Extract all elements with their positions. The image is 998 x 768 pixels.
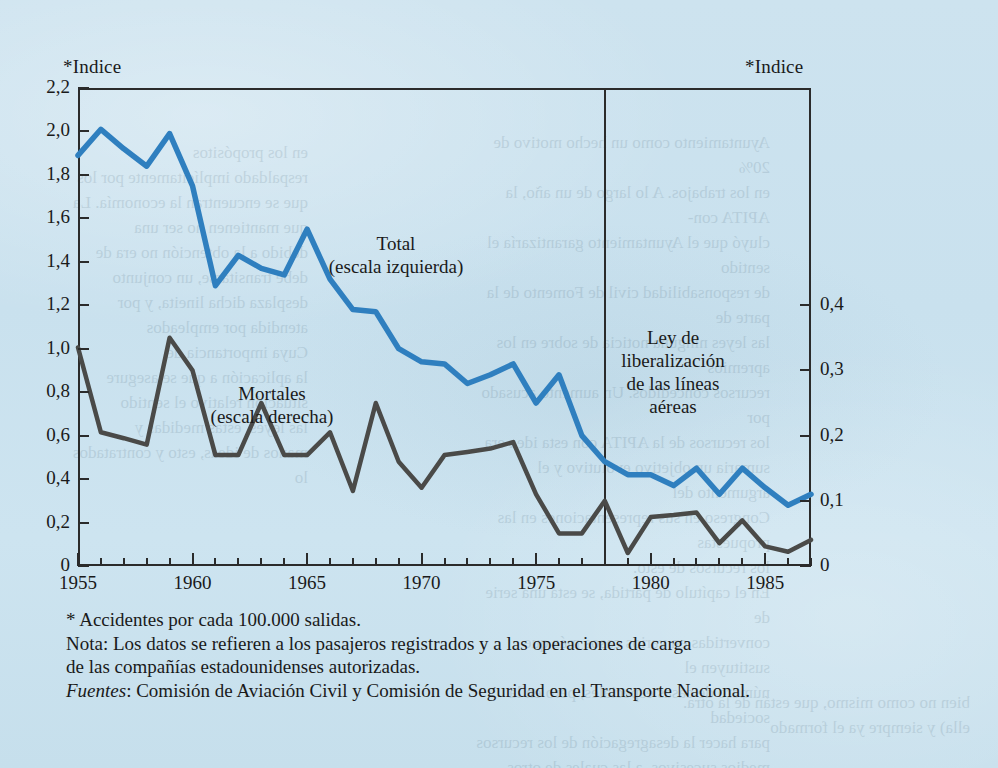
- left-axis-tickmark: [78, 348, 89, 350]
- x-axis-minor-tickmark: [375, 558, 377, 566]
- x-axis-minor-tickmark: [810, 558, 812, 566]
- x-axis-major-tickmark: [535, 553, 537, 566]
- left-axis-title: *Indice: [63, 56, 121, 78]
- x-axis-minor-tickmark: [260, 558, 262, 566]
- x-axis-minor-tickmark: [444, 558, 446, 566]
- right-axis-tickmark: [800, 435, 811, 437]
- x-axis-minor-tickmark: [352, 558, 354, 566]
- x-axis-minor-tickmark: [123, 558, 125, 566]
- x-axis-minor-tickmark: [169, 558, 171, 566]
- annotation-deregulation-law: Ley de liberalización de las líneas aére…: [621, 326, 724, 418]
- right-axis-tickmark: [800, 304, 811, 306]
- left-axis-tickmark: [78, 304, 89, 306]
- left-axis-tickmark: [78, 435, 89, 437]
- x-axis-major-tickmark: [764, 553, 766, 566]
- x-axis-minor-tickmark: [718, 558, 720, 566]
- figure-footnotes: * Accidentes por cada 100.000 salidas. N…: [66, 608, 966, 702]
- deregulation-event-line: [604, 88, 606, 566]
- x-axis-tick-label: 1975: [517, 572, 555, 594]
- footnote-asterisk: * Accidentes por cada 100.000 salidas.: [66, 608, 966, 632]
- x-axis-tick-label: 1960: [174, 572, 212, 594]
- x-axis-minor-tickmark: [627, 558, 629, 566]
- left-axis-tickmark: [78, 261, 89, 263]
- left-axis-tick-label: 1,6: [18, 206, 70, 228]
- x-axis-major-tickmark: [421, 553, 423, 566]
- x-axis-minor-tickmark: [741, 558, 743, 566]
- x-axis-minor-tickmark: [237, 558, 239, 566]
- x-axis-minor-tickmark: [604, 558, 606, 566]
- x-axis-tick-label: 1970: [403, 572, 441, 594]
- x-axis-minor-tickmark: [466, 558, 468, 566]
- x-axis-minor-tickmark: [512, 558, 514, 566]
- x-axis-tick-label: 1965: [288, 572, 326, 594]
- left-axis-tickmark: [78, 478, 89, 480]
- x-axis-minor-tickmark: [581, 558, 583, 566]
- left-axis-tickmark: [78, 565, 89, 567]
- left-axis-tick-label: 0,6: [18, 424, 70, 446]
- sources-text: : Comisión de Aviación Civil y Comisión …: [126, 680, 750, 701]
- right-axis-tick-label: 0,4: [820, 293, 844, 315]
- x-axis-minor-tickmark: [673, 558, 675, 566]
- left-axis-tickmark: [78, 174, 89, 176]
- right-axis-tick-label: 0,2: [820, 424, 844, 446]
- left-axis-tickmark: [78, 130, 89, 132]
- x-axis-major-tickmark: [192, 553, 194, 566]
- sources-label: Fuentes: [66, 680, 126, 701]
- right-axis-tick-label: 0: [820, 554, 830, 576]
- accident-rate-chart-figure: *Indice *Indice 00,20,40,60,81,01,21,41,…: [0, 0, 998, 768]
- right-axis-tick-label: 0,3: [820, 358, 844, 380]
- right-axis-tick-label: 0,1: [820, 489, 844, 511]
- x-axis-minor-tickmark: [283, 558, 285, 566]
- left-axis-tick-label: 0,4: [18, 467, 70, 489]
- x-axis-tick-label: 1980: [632, 572, 670, 594]
- footnote-note-line2: de las compañías estadounidenses autoriz…: [66, 655, 966, 679]
- x-axis-minor-tickmark: [214, 558, 216, 566]
- x-axis-tick-label: 1955: [59, 572, 97, 594]
- right-axis-tickmark: [800, 369, 811, 371]
- right-axis-title: *Indice: [745, 56, 803, 78]
- left-axis-tickmark: [78, 522, 89, 524]
- footnote-sources: Fuentes: Comisión de Aviación Civil y Co…: [66, 679, 966, 703]
- left-axis-tick-label: 0,2: [18, 511, 70, 533]
- x-axis-minor-tickmark: [329, 558, 331, 566]
- left-axis-tick-label: 2,0: [18, 119, 70, 141]
- left-axis-tick-label: 0,8: [18, 380, 70, 402]
- left-axis-tickmark: [78, 87, 89, 89]
- x-axis-minor-tickmark: [398, 558, 400, 566]
- left-axis-tick-label: 1,0: [18, 337, 70, 359]
- x-axis-major-tickmark: [650, 553, 652, 566]
- annotation-fatal-series: Mortales (escala derecha): [211, 382, 334, 428]
- left-axis-tick-label: 1,2: [18, 293, 70, 315]
- footnote-note-line1: Nota: Los datos se refieren a los pasaje…: [66, 632, 966, 656]
- left-axis-tickmark: [78, 391, 89, 393]
- x-axis-major-tickmark: [77, 553, 79, 566]
- x-axis-minor-tickmark: [100, 558, 102, 566]
- left-axis-tick-label: 2,2: [18, 76, 70, 98]
- x-axis-minor-tickmark: [489, 558, 491, 566]
- x-axis-tick-label: 1985: [746, 572, 784, 594]
- left-axis-tick-label: 1,4: [18, 250, 70, 272]
- x-axis-minor-tickmark: [787, 558, 789, 566]
- x-axis-minor-tickmark: [695, 558, 697, 566]
- x-axis-minor-tickmark: [558, 558, 560, 566]
- left-axis-tick-label: 1,8: [18, 163, 70, 185]
- x-axis-major-tickmark: [306, 553, 308, 566]
- x-axis-minor-tickmark: [146, 558, 148, 566]
- left-axis-tickmark: [78, 217, 89, 219]
- right-axis-tickmark: [800, 500, 811, 502]
- annotation-total-series: Total (escala izquierda): [329, 232, 464, 278]
